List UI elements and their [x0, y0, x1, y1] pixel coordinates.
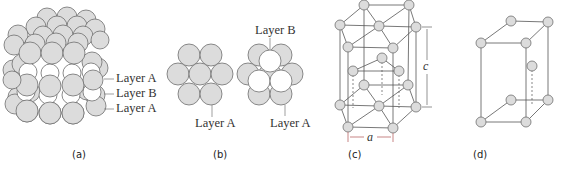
panel-d-unit-cell	[476, 16, 553, 127]
panel-b-label-right-layer-a: Layer A	[270, 116, 311, 131]
panel-a-label-layer-b: Layer B	[116, 86, 157, 101]
panel-c-hcp-prism	[335, 0, 432, 142]
caption-c: (c)	[348, 149, 361, 160]
panel-c-dimension-c: c	[423, 59, 428, 74]
panel-a-label-layer-a-bottom: Layer A	[116, 101, 157, 116]
caption-a: (a)	[72, 149, 86, 160]
panel-b-label-layer-b: Layer B	[255, 23, 296, 38]
caption-d: (d)	[473, 149, 487, 160]
panel-b-left-layer	[167, 44, 233, 117]
panel-b-label-left-layer-a: Layer A	[195, 116, 236, 131]
panel-a-label-layer-a-top: Layer A	[116, 71, 157, 86]
panel-b-right-layers	[237, 38, 303, 116]
caption-b: (b)	[213, 149, 227, 160]
panel-c-dimension-a: a	[367, 130, 373, 145]
panel-a-stack	[3, 7, 114, 124]
